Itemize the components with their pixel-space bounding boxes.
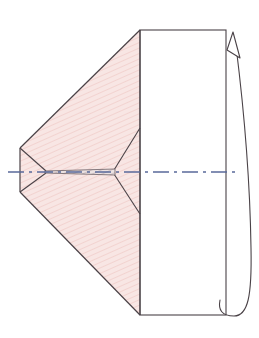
- figure-canvas: [0, 0, 259, 338]
- figure-root: [0, 0, 259, 338]
